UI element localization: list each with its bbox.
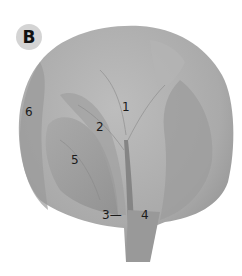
panel-badge: B <box>16 24 42 50</box>
panel-letter: B <box>23 27 36 47</box>
label-2: 2 <box>96 121 104 133</box>
label-4: 4 <box>141 209 149 221</box>
label-1: 1 <box>122 101 130 113</box>
label-6: 6 <box>25 106 33 118</box>
label-5: 5 <box>71 154 79 166</box>
label-3: 3— <box>102 209 122 221</box>
